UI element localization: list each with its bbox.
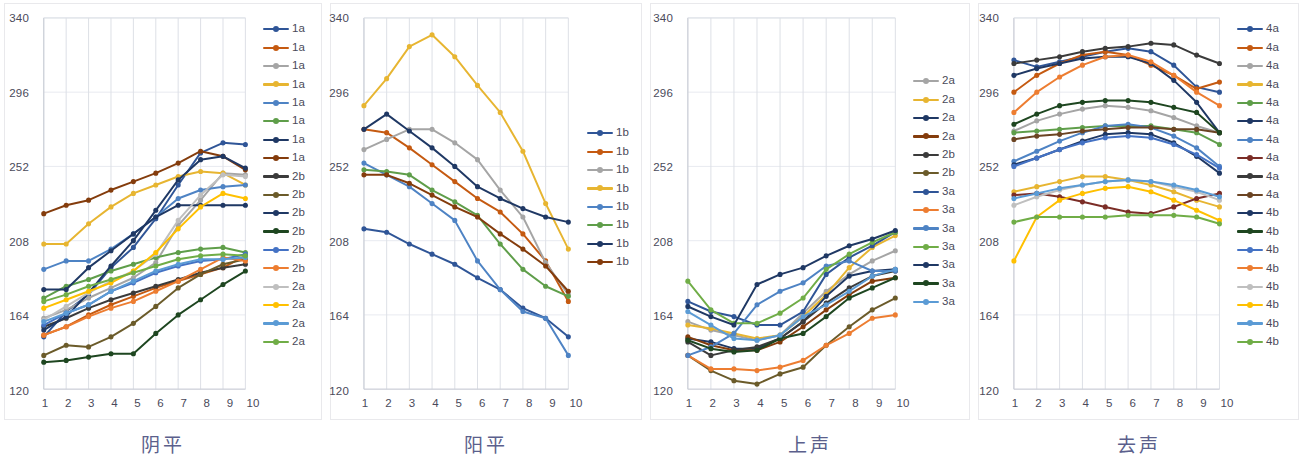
series-marker xyxy=(1057,127,1062,132)
series-marker xyxy=(731,366,736,371)
plot-background xyxy=(364,18,568,389)
series-marker xyxy=(64,241,69,246)
series-marker xyxy=(685,309,690,314)
series-marker xyxy=(1148,100,1153,105)
series-marker xyxy=(708,322,713,327)
series-marker xyxy=(870,236,875,241)
series-marker xyxy=(566,353,571,358)
series-marker xyxy=(41,241,46,246)
series-marker xyxy=(384,172,389,177)
series-marker xyxy=(220,154,225,159)
series-marker xyxy=(384,130,389,135)
series-marker xyxy=(108,334,113,339)
series-marker xyxy=(131,238,136,243)
series-marker xyxy=(1217,130,1222,135)
series-marker xyxy=(566,289,571,294)
series-marker xyxy=(131,262,136,267)
series-marker xyxy=(685,304,690,309)
series-marker xyxy=(708,366,713,371)
series-marker xyxy=(131,351,136,356)
series-marker xyxy=(778,365,783,370)
series-marker xyxy=(1126,52,1131,57)
chart-area-yangping: 120164208252296340123456789101b1b1b1b1b1… xyxy=(330,3,642,420)
series-marker xyxy=(220,140,225,145)
series-marker xyxy=(870,285,875,290)
series-marker xyxy=(1103,214,1108,219)
series-marker xyxy=(1171,198,1176,203)
plot-canvas xyxy=(331,4,641,419)
series-marker xyxy=(475,196,480,201)
series-marker xyxy=(1034,128,1039,133)
series-marker xyxy=(731,314,736,319)
series-marker xyxy=(198,193,203,198)
series-marker xyxy=(64,311,69,316)
series-marker xyxy=(893,275,898,280)
panel-title-yangping: 阳平 xyxy=(326,430,646,457)
series-marker xyxy=(430,193,435,198)
series-marker xyxy=(64,203,69,208)
series-marker xyxy=(452,218,457,223)
series-marker xyxy=(1057,112,1062,117)
chart-panel-shangsheng: 120164208252296340123456789102a2a2a2a2b2… xyxy=(646,0,974,462)
panel-title-yinping: 阴平 xyxy=(0,430,326,457)
series-marker xyxy=(543,316,548,321)
series-marker xyxy=(452,179,457,184)
panel-title-qusheng: 去声 xyxy=(974,430,1303,457)
series-marker xyxy=(893,312,898,317)
chart-panel-yinping: 120164208252296340123456789101a1a1a1a1a1… xyxy=(0,0,326,462)
series-marker xyxy=(361,172,366,177)
series-marker xyxy=(176,203,181,208)
series-marker xyxy=(1194,187,1199,192)
series-marker xyxy=(1011,61,1016,66)
series-marker xyxy=(708,307,713,312)
series-marker xyxy=(566,247,571,252)
series-marker xyxy=(176,250,181,255)
series-marker xyxy=(1194,100,1199,105)
series-marker xyxy=(1171,127,1176,132)
series-marker xyxy=(1034,149,1039,154)
series-marker xyxy=(870,274,875,279)
series-marker xyxy=(1148,213,1153,218)
series-marker xyxy=(847,289,852,294)
series-marker xyxy=(1057,147,1062,152)
series-marker xyxy=(731,336,736,341)
series-marker xyxy=(893,228,898,233)
series-marker xyxy=(685,353,690,358)
series-marker xyxy=(64,358,69,363)
series-marker xyxy=(361,160,366,165)
series-marker xyxy=(847,252,852,257)
series-marker xyxy=(1148,41,1153,46)
series-marker xyxy=(754,302,759,307)
chart-inner-qusheng: 120164208252296340123456789104a4a4a4a4a4… xyxy=(979,4,1298,419)
series-marker xyxy=(893,295,898,300)
series-marker xyxy=(153,289,158,294)
series-marker xyxy=(384,230,389,235)
chart-area-yinping: 120164208252296340123456789101a1a1a1a1a1… xyxy=(4,3,322,420)
series-marker xyxy=(1217,194,1222,199)
series-marker xyxy=(1103,46,1108,51)
series-marker xyxy=(1103,98,1108,103)
series-marker xyxy=(1080,106,1085,111)
series-marker xyxy=(1171,63,1176,68)
series-marker xyxy=(1034,184,1039,189)
series-marker xyxy=(1194,90,1199,95)
series-marker xyxy=(1126,125,1131,130)
series-marker xyxy=(1103,179,1108,184)
series-marker xyxy=(754,321,759,326)
series-marker xyxy=(498,110,503,115)
series-marker xyxy=(1034,155,1039,160)
series-marker xyxy=(1126,105,1131,110)
series-marker xyxy=(64,343,69,348)
series-marker xyxy=(566,299,571,304)
series-marker xyxy=(1011,258,1016,263)
series-marker xyxy=(1103,204,1108,209)
series-marker xyxy=(430,252,435,257)
panel-title-shangsheng: 上声 xyxy=(646,430,974,457)
series-marker xyxy=(64,258,69,263)
series-marker xyxy=(131,191,136,196)
series-marker xyxy=(108,248,113,253)
series-marker xyxy=(176,262,181,267)
series-marker xyxy=(1126,177,1131,182)
series-marker xyxy=(498,241,503,246)
series-marker xyxy=(1194,110,1199,115)
